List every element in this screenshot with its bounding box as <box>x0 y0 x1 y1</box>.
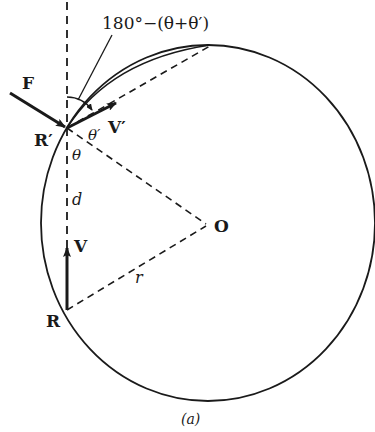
label-theta-prime: θ′ <box>88 126 101 144</box>
label-center-o: O <box>214 216 229 236</box>
label-distance: d <box>72 190 82 209</box>
label-velocity: V <box>73 236 88 256</box>
angle-label-leader <box>78 35 112 100</box>
figure-caption: (a) <box>181 411 200 427</box>
orbit-diagram: 180°−(θ+θ′) F R′ V′ θ′ θ d V O r R (a) <box>0 0 375 432</box>
label-radius: r <box>135 268 144 287</box>
label-r: R <box>46 311 61 331</box>
angle-label: 180°−(θ+θ′) <box>102 13 209 33</box>
label-theta: θ <box>72 146 81 164</box>
label-r-prime: R′ <box>34 130 53 150</box>
force-arrow <box>10 93 65 127</box>
label-force: F <box>22 73 34 93</box>
label-v-prime: V′ <box>107 117 126 137</box>
